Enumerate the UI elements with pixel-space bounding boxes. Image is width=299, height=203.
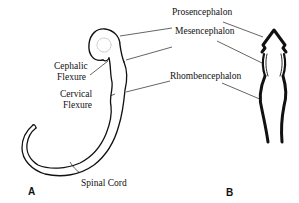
panel-label-a: A xyxy=(28,187,35,197)
label-rhombencephalon: Rhombencephalon xyxy=(170,72,241,82)
panel-label-b: B xyxy=(226,188,233,198)
label-spinal-cord: Spinal Cord xyxy=(81,179,127,189)
label-cephalic-flexure-line2: Flexure xyxy=(57,73,86,83)
label-cephalic-flexure-line1: Cephalic xyxy=(54,62,88,72)
label-prosencephalon: Prosencephalon xyxy=(172,8,232,18)
panel-b-brain-vesicles xyxy=(260,30,286,142)
label-cervical-flexure-line1: Cervical xyxy=(60,90,92,100)
label-cervical-flexure-line2: Flexure xyxy=(63,101,92,111)
label-mesencephalon: Mesencephalon xyxy=(175,27,235,37)
diagram-figure xyxy=(0,0,299,203)
